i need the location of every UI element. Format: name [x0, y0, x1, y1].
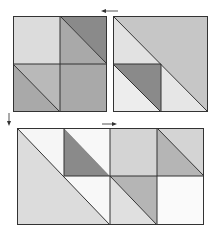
block-a: [13, 16, 107, 112]
quilt-diagram: [0, 0, 216, 238]
arrow-down-icon: [7, 113, 11, 126]
block-c: [17, 128, 204, 225]
block-b: [113, 16, 208, 112]
arrow-right-icon: [102, 122, 117, 126]
arrow-left-icon: [101, 9, 118, 13]
